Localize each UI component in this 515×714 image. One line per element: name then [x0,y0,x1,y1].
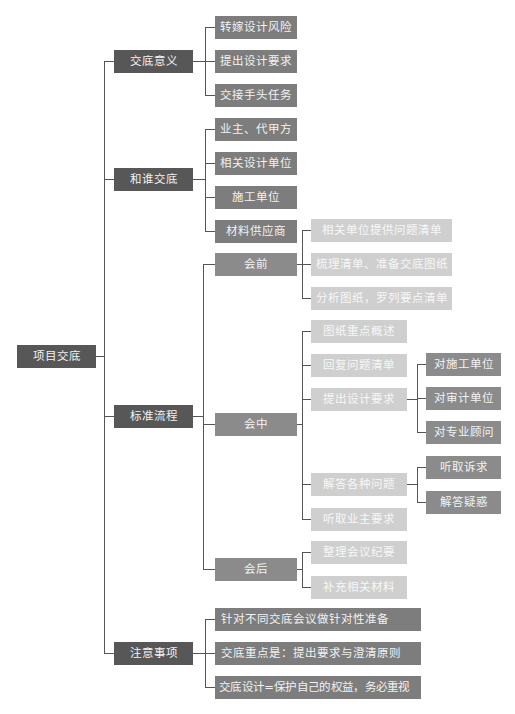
branch-node-audience[interactable]: 和谁交底 [114,168,193,191]
connector [302,264,311,265]
connector [302,484,311,485]
leaf-node[interactable]: 交底设计=保护自己的权益，务必重视 [215,676,421,699]
connector [302,331,303,519]
connector [96,356,104,357]
leaf-node[interactable]: 对审计单位 [426,387,501,410]
leaf-node[interactable]: 听取诉求 [426,456,501,479]
connector [205,27,215,28]
connector [193,653,205,654]
connector [203,424,215,425]
branch-node-process[interactable]: 标准流程 [114,405,193,428]
leaf-node[interactable]: 分析图纸，罗列要点清单 [311,287,452,310]
connector [302,519,311,520]
connector [104,61,114,62]
connector [205,231,215,232]
connector [205,687,215,688]
connector [302,230,311,231]
connector [417,502,426,503]
leaf-node[interactable]: 针对不同交底会议做针对性准备 [215,608,421,631]
stage-node-during[interactable]: 会中 [215,413,297,436]
leaf-node[interactable]: 转嫁设计风险 [215,16,297,39]
leaf-node[interactable]: 交接手头任务 [215,84,297,107]
leaf-node[interactable]: 补充相关材料 [311,576,407,599]
connector [104,179,114,180]
connector [302,399,311,400]
leaf-node[interactable]: 业主、代甲方 [215,118,297,141]
connector [407,399,417,400]
connector [407,484,417,485]
leaf-node[interactable]: 相关设计单位 [215,152,297,175]
connector [203,569,215,570]
leaf-node[interactable]: 梳理清单、准备交底图纸 [311,253,452,276]
connector [302,552,303,587]
connector [104,653,114,654]
connector [205,163,215,164]
connector [302,587,311,588]
connector [417,398,426,399]
branch-node-notes[interactable]: 注意事项 [114,642,193,665]
leaf-node[interactable]: 对施工单位 [426,353,501,376]
connector [193,179,205,180]
connector [104,61,105,654]
connector [417,432,426,433]
connector [302,331,311,332]
connector [417,467,426,468]
leaf-node[interactable]: 图纸重点概述 [311,320,407,343]
connector [203,264,215,265]
connector [193,416,203,417]
branch-node-significance[interactable]: 交底意义 [114,50,193,73]
leaf-node[interactable]: 整理会议纪要 [311,541,407,564]
connector [205,619,215,620]
leaf-node[interactable]: 提出设计要求 [311,388,407,411]
leaf-node[interactable]: 提出设计要求 [215,50,297,73]
connector [203,264,204,569]
connector [205,129,215,130]
leaf-node[interactable]: 施工单位 [215,186,297,209]
leaf-node[interactable]: 相关单位提供问题清单 [311,219,452,242]
leaf-node[interactable]: 对专业顾问 [426,421,501,444]
connector [205,197,215,198]
leaf-node[interactable]: 解答疑惑 [426,491,501,514]
connector [205,95,215,96]
stage-node-after[interactable]: 会后 [215,558,297,581]
connector [302,552,311,553]
connector [417,467,418,502]
connector [205,61,215,62]
connector [205,653,215,654]
connector [302,298,311,299]
root-node[interactable]: 项目交底 [17,345,96,368]
connector [302,365,311,366]
connector [417,364,426,365]
connector [205,129,206,231]
leaf-node[interactable]: 交底重点是：提出要求与澄清原则 [215,642,421,665]
leaf-node[interactable]: 解答各种问题 [311,473,407,496]
leaf-node[interactable]: 听取业主要求 [311,508,407,531]
stage-node-before[interactable]: 会前 [215,253,297,276]
connector [193,61,205,62]
leaf-node[interactable]: 回复问题清单 [311,354,407,377]
connector [104,416,114,417]
leaf-node[interactable]: 材料供应商 [215,220,297,243]
